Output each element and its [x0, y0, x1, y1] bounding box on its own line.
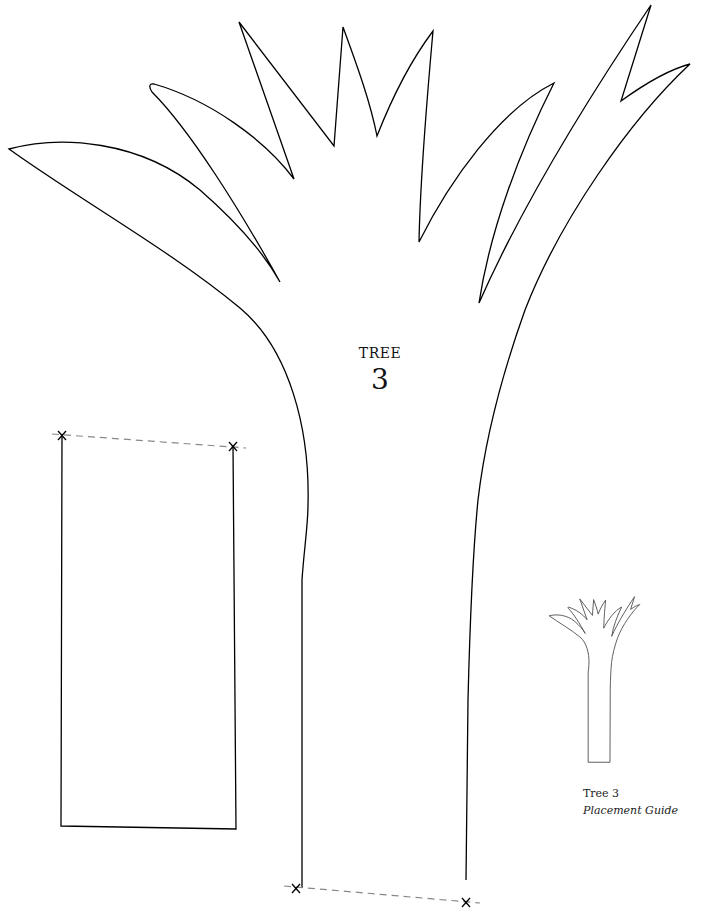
tree-template-drawing — [0, 0, 707, 916]
tree-number: 3 — [330, 363, 430, 396]
placement-guide-tree — [549, 597, 640, 763]
placement-guide-title: Tree 3 — [583, 787, 619, 800]
bottom-dashed-line — [284, 886, 480, 903]
top-dashed-line — [52, 434, 246, 448]
trunk-extension-piece — [61, 436, 236, 829]
tree-title-label: TREE — [330, 345, 430, 361]
placement-guide-subtitle: Placement Guide — [583, 804, 678, 817]
bottom-left-x-mark — [292, 884, 300, 893]
